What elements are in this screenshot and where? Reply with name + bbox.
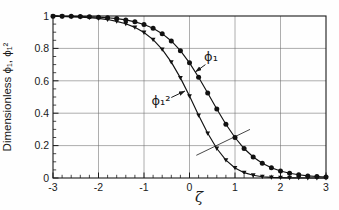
- phi1-marker: [223, 122, 228, 127]
- phi1sq-marker: [196, 113, 201, 117]
- phi1-marker: [242, 146, 247, 151]
- figure-line-chart: -3-2-1012300.20.40.60.81 Dimensionless ϕ…: [0, 0, 339, 210]
- x-tick-label: 1: [232, 181, 238, 193]
- phi1-curve-label: ϕ₁: [204, 49, 218, 64]
- plot-layer: -3-2-1012300.20.40.60.81: [34, 10, 329, 193]
- y-axis-label: Dimensionless ϕ₁, ϕ₁²: [1, 42, 13, 151]
- y-tick-label: 0.8: [34, 42, 49, 54]
- y-tick-label: 1: [43, 10, 49, 22]
- phi1-marker: [178, 48, 183, 53]
- phi1-marker: [160, 31, 165, 36]
- phi1-marker: [278, 169, 283, 174]
- phi1-marker: [214, 106, 219, 111]
- phi1-marker: [196, 75, 201, 80]
- plot-svg: -3-2-1012300.20.40.60.81 Dimensionless ϕ…: [0, 0, 339, 210]
- phi1-marker: [269, 165, 274, 170]
- phi1-marker: [233, 135, 238, 140]
- y-tick-label: 0.2: [34, 139, 49, 151]
- phi1-marker: [287, 171, 292, 176]
- phi1-marker: [251, 154, 256, 159]
- y-tick-label: 0.4: [34, 107, 49, 119]
- x-tick-label: 3: [323, 181, 329, 193]
- x-tick-label: -3: [48, 181, 57, 193]
- phi1-label-arrow: [195, 65, 205, 72]
- x-tick-label: -1: [139, 181, 148, 193]
- x-axis-label: ζ: [195, 188, 204, 206]
- phi1sq-marker: [133, 25, 138, 29]
- phi1-marker: [151, 26, 156, 31]
- phi1sq-marker: [178, 76, 183, 80]
- x-tick-label: -2: [94, 181, 103, 193]
- phi1sq-label-arrow: [171, 91, 185, 97]
- phi1-marker: [169, 38, 174, 43]
- y-tick-label: 0: [43, 172, 49, 184]
- y-tick-label: 0.6: [34, 75, 49, 87]
- phi1-marker: [123, 17, 128, 22]
- phi1sq-marker: [187, 94, 192, 98]
- phi1-marker: [187, 60, 192, 65]
- phi1-marker: [142, 22, 147, 27]
- phi1-marker: [132, 19, 137, 24]
- phi1-marker: [260, 161, 265, 166]
- x-tick-label: 0: [187, 181, 193, 193]
- annotation-cross-line: [196, 129, 250, 155]
- phi1-marker: [205, 90, 210, 95]
- phi1sq-curve-label: ϕ₁²: [152, 93, 171, 108]
- x-tick-label: 2: [278, 181, 284, 193]
